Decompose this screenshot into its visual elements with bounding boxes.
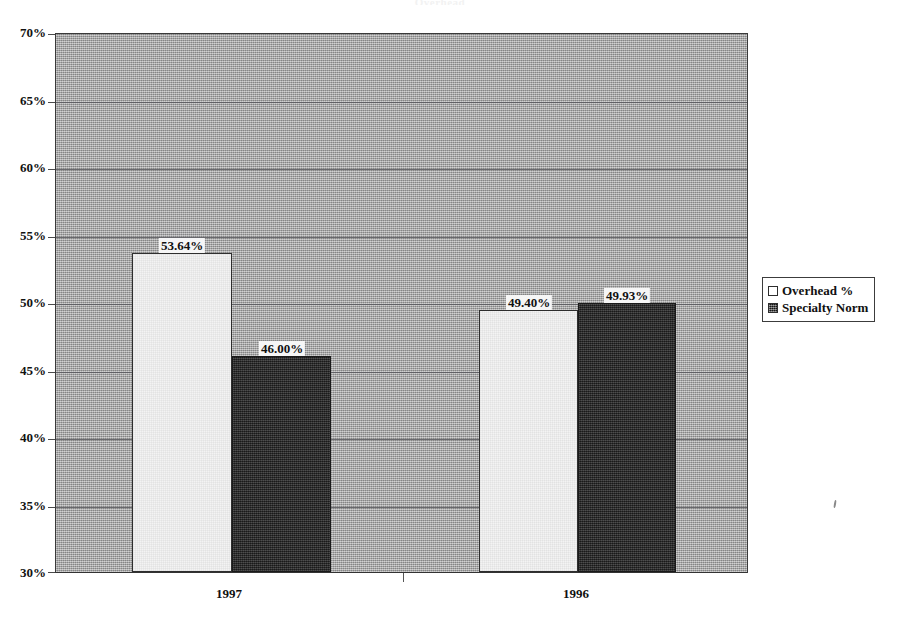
y-axis-label-30: 30% bbox=[0, 565, 46, 581]
y-axis-label-65: 65% bbox=[0, 93, 46, 109]
y-tick-65 bbox=[48, 102, 55, 103]
bar-1996-specialty-norm[interactable] bbox=[578, 303, 676, 572]
y-tick-45 bbox=[48, 372, 55, 373]
x-axis-label-1996: 1996 bbox=[563, 586, 589, 602]
chart-title-ghost: Overhead bbox=[330, 0, 550, 5]
gridline-30-baseline bbox=[56, 572, 747, 573]
legend-label-overhead: Overhead % bbox=[782, 282, 853, 299]
data-label-1997-overhead: 53.64% bbox=[159, 238, 205, 253]
y-axis-label-35: 35% bbox=[0, 498, 46, 514]
x-axis-category-tick bbox=[403, 573, 404, 582]
gridline-60 bbox=[56, 169, 747, 170]
y-axis-label-45: 45% bbox=[0, 363, 46, 379]
bar-chart: Overhead 70% 65% 60% 55% 50% 45% 40% 35%… bbox=[0, 0, 912, 626]
y-tick-55 bbox=[48, 237, 55, 238]
legend-item-overhead[interactable]: Overhead % bbox=[768, 282, 868, 299]
y-axis-label-70: 70% bbox=[0, 25, 46, 41]
legend-label-specialty-norm: Specialty Norm bbox=[782, 299, 868, 316]
y-axis-label-50: 50% bbox=[0, 295, 46, 311]
y-tick-50 bbox=[48, 304, 55, 305]
y-axis-label-60: 60% bbox=[0, 160, 46, 176]
y-axis-label-40: 40% bbox=[0, 430, 46, 446]
y-tick-30 bbox=[48, 572, 55, 573]
y-tick-35 bbox=[48, 507, 55, 508]
legend-item-specialty-norm[interactable]: Specialty Norm bbox=[768, 299, 868, 316]
y-tick-40 bbox=[48, 439, 55, 440]
y-tick-60 bbox=[48, 169, 55, 170]
gridline-65 bbox=[56, 102, 747, 103]
plot-area: 53.64% 46.00% 49.40% 49.93% bbox=[55, 33, 748, 573]
data-label-1996-specialty-norm: 49.93% bbox=[604, 288, 650, 303]
bar-1996-overhead[interactable] bbox=[479, 310, 578, 572]
data-label-1996-overhead: 49.40% bbox=[506, 295, 552, 310]
bar-1997-overhead[interactable] bbox=[132, 253, 232, 572]
y-axis-label-55: 55% bbox=[0, 228, 46, 244]
x-axis-label-1997: 1997 bbox=[216, 586, 242, 602]
white-square-icon bbox=[768, 286, 778, 296]
bar-1997-specialty-norm[interactable] bbox=[232, 356, 331, 572]
scan-artifact-speck bbox=[833, 500, 836, 508]
y-tick-70 bbox=[48, 34, 55, 35]
chart-legend: Overhead % Specialty Norm bbox=[762, 277, 875, 322]
data-label-1997-specialty-norm: 46.00% bbox=[259, 341, 305, 356]
dark-square-icon bbox=[768, 303, 778, 313]
